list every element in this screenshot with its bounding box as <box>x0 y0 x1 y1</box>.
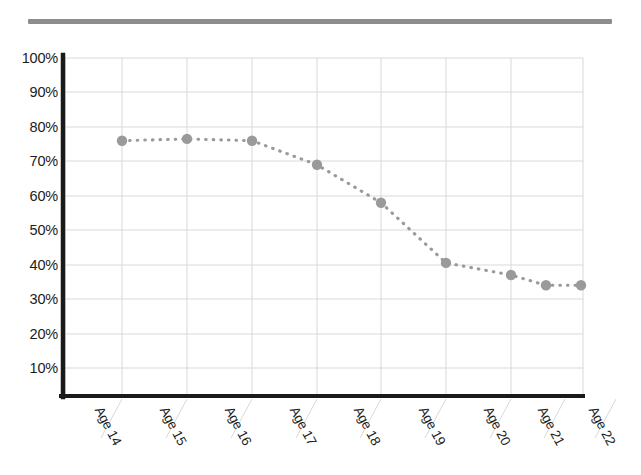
x-axis-label: Age 16 <box>222 404 255 448</box>
x-axis-label: Age 14 <box>92 404 125 448</box>
x-axis-label: Age 18 <box>351 404 384 448</box>
x-axis-label: Age 20 <box>481 404 514 448</box>
x-axis-label: Age 19 <box>416 404 449 448</box>
x-axis-label: Age 22 <box>586 404 619 448</box>
x-axis-label: Age 21 <box>535 404 568 448</box>
x-axis-label: Age 17 <box>287 404 320 448</box>
line-chart: 10%20%30%40%50%60%70%80%90%100% Age 14Ag… <box>0 0 641 475</box>
x-axis-tick-labels: Age 14Age 15Age 16Age 17Age 18Age 19Age … <box>0 0 641 475</box>
x-axis-label: Age 15 <box>157 404 190 448</box>
